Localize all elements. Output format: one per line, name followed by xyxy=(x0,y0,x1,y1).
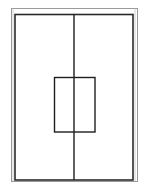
center-panel xyxy=(55,78,96,133)
door-diagram-svg xyxy=(0,0,144,188)
door-elevation-diagram xyxy=(0,0,144,188)
